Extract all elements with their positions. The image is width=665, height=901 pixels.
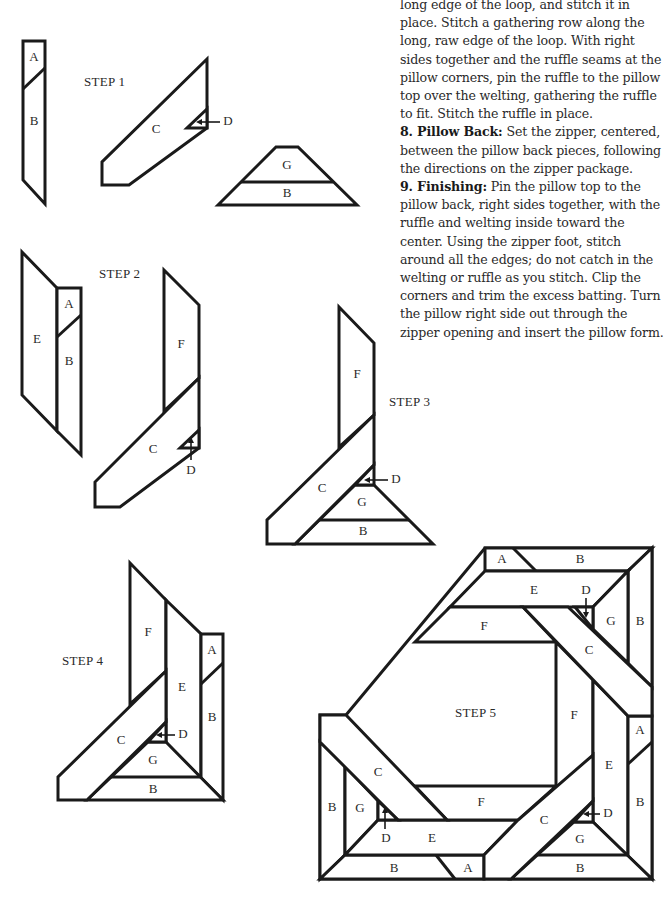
step1-label-c: C — [152, 121, 161, 136]
step2-label-c: C — [149, 441, 158, 456]
step5-label-bottom-b-left: B — [390, 860, 399, 875]
step5-label-right-c: C — [540, 812, 549, 827]
step5-label-left-g: G — [355, 800, 364, 815]
step5-top-strip-ab — [485, 548, 652, 571]
step5-label-left-d: D — [381, 830, 390, 845]
step1-label-b: B — [30, 113, 39, 128]
instruction-page: long edge of the loop, and stitch it in … — [0, 0, 665, 901]
step5-label-top-b-right: B — [636, 613, 645, 628]
step3-label-f: F — [353, 366, 360, 381]
step5-label-right-f: F — [570, 707, 577, 722]
step2-strip-c — [95, 378, 199, 507]
assembly-diagrams: A B STEP 1 C D G B E A B STEP — [0, 0, 665, 901]
step5-label-bottom-b-right: B — [576, 860, 585, 875]
step3-label-c: C — [318, 480, 327, 495]
step5-label-right-b: B — [636, 794, 645, 809]
step5-label-top-a: A — [497, 551, 507, 566]
step2-label-d: D — [186, 462, 195, 477]
step5-diagram: A B B E G F F E A B — [320, 548, 652, 879]
step1-label-b2: B — [283, 185, 292, 200]
step5-label-right-e: E — [605, 757, 613, 772]
step5-label-right-a: A — [635, 722, 645, 737]
step1-label-d: D — [223, 113, 232, 128]
step1-label-g: G — [282, 157, 291, 172]
step3-label-g: G — [357, 494, 366, 509]
step4-label-b2: B — [149, 781, 158, 796]
step3-diagram: F STEP 3 G B C D — [267, 307, 433, 544]
step5-label-left-f: F — [477, 794, 484, 809]
step4-label-e: E — [178, 679, 186, 694]
step5-label-left-e: E — [428, 830, 436, 845]
step2-label-f: F — [177, 336, 184, 351]
step5-label-top-c: C — [585, 642, 594, 657]
step4-label-c: C — [117, 732, 126, 747]
step5-bottom-strip-ba — [320, 855, 484, 879]
step4-label-g: G — [148, 752, 157, 767]
step4-label-a: A — [207, 642, 217, 657]
step2-label-a: A — [64, 296, 74, 311]
step5-label-left-c: C — [374, 764, 383, 779]
step4-diagram: F E A B STEP 4 G B C D — [58, 563, 223, 800]
step5-label-left-b: B — [328, 799, 337, 814]
step1-title: STEP 1 — [84, 74, 125, 89]
step5-label-top-d: D — [581, 582, 590, 597]
step5-title: STEP 5 — [455, 705, 496, 720]
step5-label-top-e: E — [530, 582, 538, 597]
step5-label-bottom-a: A — [463, 860, 473, 875]
step5-label-top-f: F — [480, 618, 487, 633]
step4-title: STEP 4 — [62, 653, 104, 668]
step5-label-right-d: D — [603, 805, 612, 820]
step5-label-top-b: B — [576, 551, 585, 566]
step2-strip-ab — [57, 288, 81, 455]
step2-label-e: E — [33, 331, 41, 346]
step5-label-right-g: G — [575, 831, 584, 846]
step1-diagram: A B STEP 1 C D G B — [23, 41, 357, 205]
step5-label-top-g: G — [606, 613, 615, 628]
step3-title: STEP 3 — [389, 394, 430, 409]
step3-label-b: B — [359, 523, 368, 538]
step2-label-b: B — [65, 353, 74, 368]
step4-label-f: F — [144, 624, 151, 639]
step4-label-b: B — [208, 709, 217, 724]
step2-diagram: E A B STEP 2 F C D — [22, 252, 199, 507]
step4-label-d: D — [178, 726, 187, 741]
step2-title: STEP 2 — [99, 266, 140, 281]
step1-label-a: A — [29, 49, 39, 64]
step3-label-d: D — [391, 471, 400, 486]
